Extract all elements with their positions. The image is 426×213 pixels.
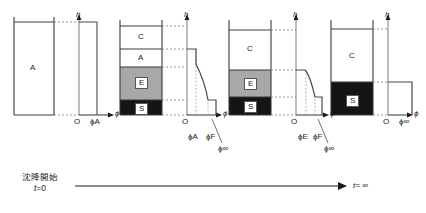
panel-2-origin-label: O bbox=[182, 118, 188, 126]
timeline-end-label-eq: = ∞ bbox=[355, 181, 368, 190]
panel-2-callout-label-phi-infinity: ϕ∞ bbox=[218, 145, 228, 153]
panel-2-layer-label-E: E bbox=[135, 77, 148, 89]
panel-3-h-axis-label: h bbox=[293, 11, 297, 19]
panel-2-tick-label-phiA: ϕA bbox=[188, 133, 198, 141]
panel-1 bbox=[14, 14, 114, 117]
panel-1-profile-curve bbox=[79, 22, 97, 115]
panel-3-layer-label-E: E bbox=[244, 78, 257, 90]
panel-4-layer-label-S: S bbox=[346, 95, 359, 107]
panel-4-tick-label-phi-infinity: ϕ∞ bbox=[399, 118, 409, 126]
panel-1-layer-label-A: A bbox=[30, 64, 35, 72]
panel-4-phi-axis-label: ϕ bbox=[414, 110, 418, 118]
panel-3-layer-label-C: C bbox=[247, 45, 253, 53]
panel-1-h-axis-label: h bbox=[76, 11, 80, 19]
panel-4-h-axis-label: h bbox=[385, 11, 389, 19]
panel-1-origin-label: O bbox=[74, 118, 80, 126]
panel-4 bbox=[331, 14, 413, 117]
panel-2-phi-arrowhead bbox=[216, 113, 222, 118]
panel-4-profile-curve bbox=[388, 82, 412, 115]
timeline bbox=[75, 182, 347, 190]
panel-3-phi-arrowhead bbox=[323, 113, 329, 118]
panel-2-profile-curve bbox=[187, 49, 216, 115]
panel-4-layer-label-C: C bbox=[349, 52, 355, 60]
panel-3-layer-label-S: S bbox=[244, 101, 257, 113]
panel-4-origin-label: O bbox=[383, 118, 389, 126]
panel-3-origin-label: O bbox=[291, 118, 297, 126]
panel-3-tick-label-phiE: ϕE bbox=[298, 133, 308, 141]
panel-1-tick-label-phiA: ϕA bbox=[90, 118, 100, 126]
panel-2-layer-label-S: S bbox=[135, 103, 148, 115]
panel-2-tick-label-phiF: ϕF bbox=[206, 133, 215, 141]
panel-3-tick-label-phiF: ϕF bbox=[313, 133, 322, 141]
timeline-start-label-jp: 沈降開始 bbox=[12, 172, 68, 183]
panel-2-h-axis-label: h bbox=[184, 11, 188, 19]
panel-3-phi-axis-label: ϕ bbox=[330, 110, 334, 118]
panel-1-phi-axis-label: ϕ bbox=[115, 110, 119, 118]
panel-2-phi-axis-label: ϕ bbox=[223, 110, 227, 118]
panel-3-profile-curve bbox=[296, 70, 322, 115]
panel-2-layer-label-C: C bbox=[138, 33, 144, 41]
sedimentation-zone-diagram: h A O ϕA ϕ h C A E S O ϕA ϕF ϕ∞ ϕ h C E … bbox=[0, 0, 426, 213]
panel-1-phi-arrowhead bbox=[108, 113, 114, 118]
panel-2-layer-label-A: A bbox=[138, 54, 143, 62]
panel-3-callout-label-phi-infinity: ϕ∞ bbox=[324, 145, 334, 153]
timeline-start-label-eq: =0 bbox=[36, 183, 46, 193]
timeline-arrow-head bbox=[338, 182, 347, 190]
